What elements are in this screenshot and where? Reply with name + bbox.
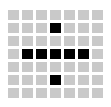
grid-cell-r6-c6 xyxy=(78,75,89,85)
grid-cell-r2-c7 xyxy=(92,23,103,33)
grid-cell-r2-c5 xyxy=(64,23,75,33)
grid-cell-r7-c1 xyxy=(8,88,19,98)
plus-grid-icon xyxy=(0,0,111,107)
grid-cell-r5-c7 xyxy=(92,62,103,72)
grid-cell-r3-c7 xyxy=(92,36,103,46)
grid-cell-r1-c4 xyxy=(50,10,61,20)
grid-cell-r2-c6 xyxy=(78,23,89,33)
grid-cell-r3-c1 xyxy=(8,36,19,46)
grid-cell-r6-c1 xyxy=(8,75,19,85)
grid-cell-r7-c3 xyxy=(36,88,47,98)
pixel-grid xyxy=(8,10,103,98)
grid-cell-r4-c2 xyxy=(22,49,33,59)
grid-cell-r7-c2 xyxy=(22,88,33,98)
grid-cell-r5-c6 xyxy=(78,62,89,72)
grid-cell-r1-c3 xyxy=(36,10,47,20)
grid-cell-r5-c5 xyxy=(64,62,75,72)
grid-cell-r2-c4 xyxy=(50,23,61,33)
grid-cell-r3-c4 xyxy=(50,36,61,46)
grid-cell-r4-c6 xyxy=(78,49,89,59)
grid-cell-r5-c1 xyxy=(8,62,19,72)
grid-cell-r6-c5 xyxy=(64,75,75,85)
grid-cell-r1-c7 xyxy=(92,10,103,20)
grid-cell-r6-c7 xyxy=(92,75,103,85)
grid-cell-r7-c4 xyxy=(50,88,61,98)
grid-cell-r3-c3 xyxy=(36,36,47,46)
grid-cell-r5-c2 xyxy=(22,62,33,72)
grid-cell-r4-c1 xyxy=(8,49,19,59)
grid-cell-r4-c4 xyxy=(50,49,61,59)
grid-cell-r1-c1 xyxy=(8,10,19,20)
grid-cell-r2-c1 xyxy=(8,23,19,33)
grid-cell-r7-c5 xyxy=(64,88,75,98)
grid-cell-r4-c7 xyxy=(92,49,103,59)
grid-cell-r5-c3 xyxy=(36,62,47,72)
grid-cell-r6-c4 xyxy=(50,75,61,85)
grid-cell-r4-c5 xyxy=(64,49,75,59)
grid-cell-r3-c2 xyxy=(22,36,33,46)
grid-cell-r1-c5 xyxy=(64,10,75,20)
grid-cell-r4-c3 xyxy=(36,49,47,59)
grid-cell-r1-c6 xyxy=(78,10,89,20)
grid-cell-r6-c2 xyxy=(22,75,33,85)
grid-cell-r7-c7 xyxy=(92,88,103,98)
grid-cell-r3-c5 xyxy=(64,36,75,46)
grid-cell-r2-c3 xyxy=(36,23,47,33)
grid-cell-r5-c4 xyxy=(50,62,61,72)
grid-cell-r1-c2 xyxy=(22,10,33,20)
grid-cell-r6-c3 xyxy=(36,75,47,85)
grid-cell-r7-c6 xyxy=(78,88,89,98)
grid-cell-r3-c6 xyxy=(78,36,89,46)
grid-cell-r2-c2 xyxy=(22,23,33,33)
